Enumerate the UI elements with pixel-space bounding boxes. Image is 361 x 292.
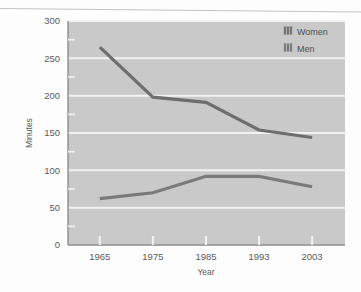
y-axis-tick-label: 50 bbox=[49, 202, 60, 213]
x-axis-tick-label: 1993 bbox=[248, 251, 269, 262]
legend-swatch-women bbox=[284, 27, 292, 35]
y-axis-tick-label: 100 bbox=[44, 165, 60, 176]
y-axis-tick-label: 0 bbox=[55, 239, 60, 250]
x-axis-title: Year bbox=[197, 267, 214, 277]
y-axis-tick-label: 300 bbox=[44, 15, 60, 26]
x-axis-tick-label: 1975 bbox=[142, 251, 163, 262]
x-axis-tick-label: 1965 bbox=[89, 251, 110, 262]
legend-label-women: Women bbox=[297, 27, 328, 37]
y-axis-tick-labels: 050100150200250300 bbox=[44, 15, 60, 250]
legend-label-men: Men bbox=[297, 44, 315, 54]
line-chart: 050100150200250300 19651975198519932003 … bbox=[0, 0, 361, 292]
x-axis-tick-label: 1985 bbox=[195, 251, 216, 262]
y-axis-tick-label: 250 bbox=[44, 53, 60, 64]
x-axis-tick-label: 2003 bbox=[302, 251, 323, 262]
y-axis-tick-label: 200 bbox=[44, 90, 60, 101]
x-axis-tick-labels: 19651975198519932003 bbox=[89, 251, 322, 262]
y-axis-title: Minutes bbox=[24, 118, 34, 148]
chart-figure: 050100150200250300 19651975198519932003 … bbox=[0, 0, 361, 292]
legend-swatch-men bbox=[284, 44, 292, 52]
y-axis-tick-label: 150 bbox=[44, 127, 60, 138]
